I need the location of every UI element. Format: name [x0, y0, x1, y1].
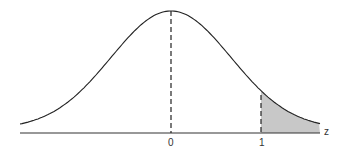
axis-label-z: z: [324, 127, 329, 137]
normal-curve-diagram: [0, 0, 338, 154]
tick-label-1: 1: [259, 138, 265, 148]
tick-label-0: 0: [168, 138, 174, 148]
shaded-tail-area: [261, 91, 320, 133]
